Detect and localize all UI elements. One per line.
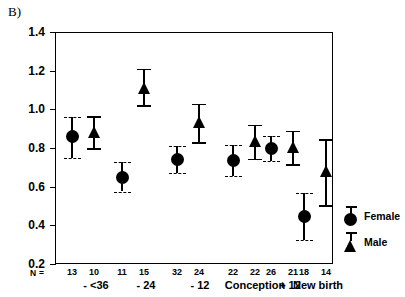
- error-bar-cap-lower: [169, 173, 186, 174]
- error-bar-cap-lower: [137, 105, 151, 107]
- sample-size-value: 14: [315, 267, 337, 277]
- marker-triangle-male: [287, 141, 299, 153]
- legend-item-female: Female: [340, 205, 404, 231]
- sample-size-value: 11: [111, 267, 133, 277]
- legend-label-female: Female: [364, 210, 400, 222]
- error-bar-cap-upper: [64, 117, 81, 118]
- error-bar-cap-upper: [169, 146, 186, 147]
- x-axis-category-label: New birth: [278, 279, 358, 291]
- error-bar-cap-upper: [319, 139, 333, 141]
- marker-triangle-male: [193, 116, 205, 128]
- error-bar-cap-upper: [114, 162, 131, 163]
- error-bar-cap-lower: [87, 148, 101, 150]
- panel-label: B): [8, 4, 21, 20]
- y-axis-tick-label: 0.2: [11, 257, 45, 271]
- y-axis-tick-label: 1.4: [11, 25, 45, 39]
- y-axis-tick-label: 0.8: [11, 141, 45, 155]
- error-bar-cap-upper: [248, 125, 262, 127]
- y-axis-tick-label: 0.6: [11, 180, 45, 194]
- sample-size-value: 21: [282, 267, 304, 277]
- marker-triangle-male: [138, 82, 150, 94]
- legend-circle-errorbar-icon: [340, 205, 362, 227]
- error-bar-cap-lower: [263, 161, 280, 162]
- chart-legend: Female Male: [340, 205, 404, 257]
- y-axis-tick-label: 1.0: [11, 102, 45, 116]
- y-axis-tick: [50, 148, 56, 149]
- sample-size-value: 24: [188, 267, 210, 277]
- legend-label-male: Male: [364, 236, 387, 248]
- sample-size-value: 22: [222, 267, 244, 277]
- legend-triangle-errorbar-icon: [340, 231, 362, 253]
- error-bar-cap-upper: [225, 145, 242, 146]
- error-bar-cap-upper: [192, 104, 206, 106]
- y-axis-tick: [50, 109, 56, 110]
- y-axis-tick: [50, 71, 56, 72]
- sample-size-value: 13: [61, 267, 83, 277]
- error-bar-cap-upper: [263, 136, 280, 137]
- marker-circle-female: [227, 154, 240, 167]
- y-axis-tick: [50, 187, 56, 188]
- y-axis-tick: [50, 225, 56, 226]
- sample-size-value: 22: [244, 267, 266, 277]
- marker-circle-female: [66, 130, 79, 143]
- error-bar-cap-lower: [319, 205, 333, 207]
- error-bar-cap-upper: [296, 193, 313, 194]
- error-bar-cap-lower: [64, 158, 81, 159]
- sample-size-value: 10: [83, 267, 105, 277]
- error-bar-cap-lower: [296, 240, 313, 241]
- y-axis-tick-label: 0.4: [11, 218, 45, 232]
- marker-triangle-male: [249, 135, 261, 147]
- error-bar-cap-lower: [114, 192, 131, 193]
- error-bar-cap-upper: [87, 116, 101, 118]
- sample-size-value: 32: [166, 267, 188, 277]
- marker-circle-female: [116, 171, 129, 184]
- marker-triangle-male: [320, 165, 332, 177]
- error-bar-cap-upper: [286, 131, 300, 133]
- figure-panel-b: B) Mean Sucks / Hr (ln) +SE N = Female M…: [0, 0, 405, 297]
- marker-circle-female: [298, 210, 311, 223]
- y-axis-tick: [50, 264, 56, 265]
- error-bar-cap-lower: [225, 176, 242, 177]
- error-bar-cap-lower: [286, 164, 300, 166]
- marker-circle-female: [171, 153, 184, 166]
- sample-size-value: 15: [133, 267, 155, 277]
- y-axis-tick: [50, 32, 56, 33]
- marker-circle-female: [265, 142, 278, 155]
- marker-triangle-male: [88, 126, 100, 138]
- error-bar-cap-lower: [248, 159, 262, 161]
- error-bar-cap-upper: [137, 69, 151, 71]
- legend-item-male: Male: [340, 231, 404, 257]
- y-axis-tick-label: 1.2: [11, 64, 45, 78]
- error-bar-cap-lower: [192, 142, 206, 144]
